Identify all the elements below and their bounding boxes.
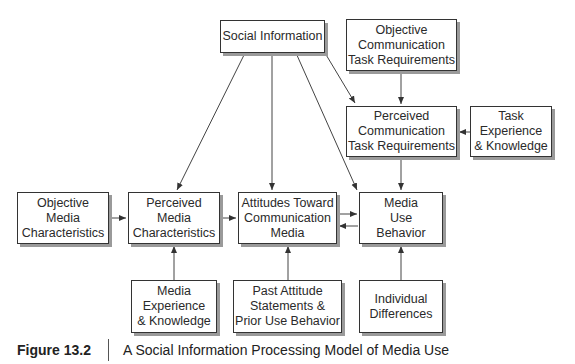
node-task-experience-knowledge: Task Experience & Knowledge xyxy=(470,106,552,157)
node-label: Objective Communication Task Requirement… xyxy=(348,23,455,68)
node-individual-differences: Individual Differences xyxy=(359,280,443,333)
caption-divider xyxy=(108,339,109,361)
node-label: Individual Differences xyxy=(370,292,433,322)
figure-title: A Social Information Processing Model of… xyxy=(123,342,449,358)
node-media-use-behavior: Media Use Behavior xyxy=(359,192,443,244)
node-label: Objective Media Characteristics xyxy=(22,196,105,241)
node-label: Task Experience & Knowledge xyxy=(474,109,548,154)
arrow-social-to-perceived-media xyxy=(177,53,245,190)
figure-caption: Figure 13.2 A Social Information Process… xyxy=(17,340,449,360)
node-label: Past Attitude Statements & Prior Use Beh… xyxy=(235,284,340,329)
node-past-attitude-statements: Past Attitude Statements & Prior Use Beh… xyxy=(233,280,342,333)
figure-number: Figure 13.2 xyxy=(17,342,91,358)
node-perceived-communication-task-requirements: Perceived Communication Task Requirement… xyxy=(346,106,457,157)
node-label: Media Experience & Knowledge xyxy=(137,284,211,329)
social-information-processing-diagram: Social Information Objective Communicati… xyxy=(0,0,575,364)
node-objective-communication-task-requirements: Objective Communication Task Requirement… xyxy=(346,19,457,71)
node-objective-media-characteristics: Objective Media Characteristics xyxy=(17,192,109,244)
node-media-experience-knowledge: Media Experience & Knowledge xyxy=(131,280,217,333)
node-label: Social Information xyxy=(222,29,322,44)
node-social-information: Social Information xyxy=(220,20,325,53)
node-label: Perceived Communication Task Requirement… xyxy=(348,109,455,154)
node-perceived-media-characteristics: Perceived Media Characteristics xyxy=(128,192,220,244)
node-label: Attitudes Toward Communication Media xyxy=(241,196,333,241)
node-attitudes-toward-communication-media: Attitudes Toward Communication Media xyxy=(238,192,337,244)
node-label: Perceived Media Characteristics xyxy=(133,196,216,241)
node-label: Media Use Behavior xyxy=(376,196,425,241)
